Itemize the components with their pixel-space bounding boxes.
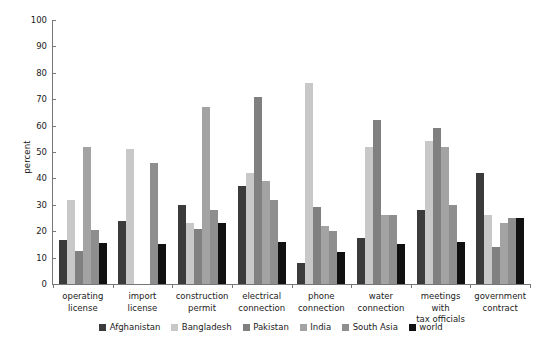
legend-item[interactable]: Bangladesh [171,322,231,332]
legend-swatch-icon [342,324,349,331]
bar[interactable] [492,247,500,284]
x-axis-label: operatinglicense [53,291,113,314]
bar[interactable] [357,238,365,284]
bar-group-bars [113,20,173,284]
bar[interactable] [476,173,484,284]
y-axis-tick-label: 70 [7,94,47,104]
legend-item[interactable]: Afghanistan [99,322,160,332]
bar[interactable] [297,263,305,284]
legend-item[interactable]: world [409,322,443,332]
bar[interactable] [75,251,83,284]
bar[interactable] [484,215,492,284]
bar[interactable] [126,149,134,284]
legend-label: Bangladesh [182,322,232,332]
y-axis-tick-label: 0 [7,279,47,289]
legend-label: South Asia [353,322,398,332]
bar-group-bars [351,20,411,284]
x-axis-tick [351,284,352,288]
bar[interactable] [381,215,389,284]
bar[interactable] [329,231,337,284]
bar[interactable] [202,107,210,284]
bar-group-bars [411,20,471,284]
bar-group-bars [292,20,352,284]
bar[interactable] [441,147,449,284]
bar[interactable] [270,200,278,284]
bar[interactable] [262,181,270,284]
bar-group [351,20,411,284]
x-axis-tick [411,284,412,288]
grouped-bar-chart: percent 0102030405060708090100 operating… [0,0,542,348]
x-axis-label-line: connection [232,303,292,315]
x-axis-label-line: construction [172,291,232,303]
chart-legend: AfghanistanBangladeshPakistanIndiaSouth … [0,322,542,332]
bar[interactable] [91,230,99,284]
bar[interactable] [178,205,186,284]
bar[interactable] [373,120,381,284]
legend-swatch-icon [243,324,250,331]
bar[interactable] [254,97,262,284]
bar-group [113,20,173,284]
bar-group [53,20,113,284]
bar[interactable] [246,173,254,284]
bar[interactable] [305,83,313,284]
y-axis-tick-label: 100 [7,15,47,25]
x-axis-label: phoneconnection [292,291,352,314]
legend-item[interactable]: Pakistan [243,322,289,332]
bar[interactable] [449,205,457,284]
bar[interactable] [99,243,107,284]
bar[interactable] [337,252,345,284]
plot-area [53,20,530,284]
bar[interactable] [210,210,218,284]
y-axis-tick-label: 50 [7,147,47,157]
bar[interactable] [118,221,126,284]
bar[interactable] [238,186,246,284]
bar[interactable] [365,147,373,284]
legend-item[interactable]: India [300,322,331,332]
x-axis-label-line: phone [292,291,352,303]
x-axis-label-line: connection [351,303,411,315]
bar[interactable] [150,163,158,284]
legend-label: India [310,322,331,332]
x-axis-tick [113,284,114,288]
bar[interactable] [433,128,441,284]
x-axis-label-line: permit [172,303,232,315]
bar[interactable] [194,229,202,284]
bar[interactable] [425,141,433,284]
bar[interactable] [313,207,321,284]
x-axis-tick [470,284,471,288]
x-axis-label: governmentcontract [470,291,530,314]
bar[interactable] [500,223,508,284]
x-axis-label-line: operating [53,291,113,303]
x-axis-label-line: license [53,303,113,315]
legend-swatch-icon [300,324,307,331]
bar-group [232,20,292,284]
bar[interactable] [278,242,286,284]
x-axis-label: electricalconnection [232,291,292,314]
bar[interactable] [457,242,465,284]
legend-item[interactable]: South Asia [342,322,398,332]
x-axis-label-line: meetings with [411,291,471,314]
x-axis-label: meetings withtax officials [411,291,471,326]
bar[interactable] [158,244,166,284]
y-axis-tick-label: 60 [7,121,47,131]
bar[interactable] [83,147,91,284]
x-axis-tick [172,284,173,288]
bar[interactable] [389,215,397,284]
bar-group-bars [232,20,292,284]
y-axis-tick-label: 10 [7,253,47,263]
bar-group [470,20,530,284]
bar[interactable] [59,240,67,284]
x-axis-label-line: electrical [232,291,292,303]
bar[interactable] [186,223,194,284]
x-axis-label-line: contract [470,303,530,315]
bar[interactable] [218,223,226,284]
x-axis-label: import license [113,291,173,314]
x-axis-label-line: connection [292,303,352,315]
bar[interactable] [397,244,405,284]
bar[interactable] [508,218,516,284]
bar[interactable] [67,200,75,284]
bar-group [172,20,232,284]
bar[interactable] [417,210,425,284]
bar[interactable] [321,226,329,284]
bar[interactable] [516,218,524,284]
